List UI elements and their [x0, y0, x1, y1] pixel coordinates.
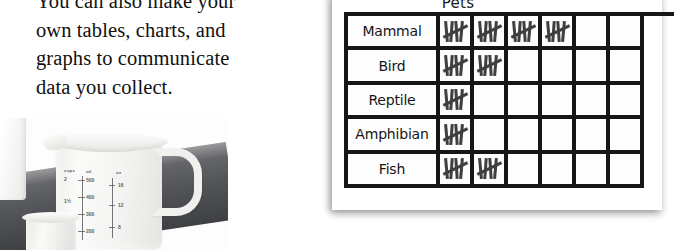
- scale-tick: [78, 197, 85, 198]
- table-row: Fish: [348, 154, 674, 188]
- scale-cups-2: 2: [64, 176, 67, 182]
- tally-cell-empty: [610, 50, 644, 84]
- scale-header-oz: oz: [116, 170, 121, 175]
- row-label-mammal: Mammal: [348, 16, 440, 50]
- table-row: Amphibian: [348, 119, 674, 153]
- small-cup-rim: [22, 212, 80, 223]
- tally-cell-empty: [474, 119, 508, 153]
- scale-tick: [78, 180, 85, 181]
- scale-tick: [78, 231, 85, 232]
- tally-mark-icon: [512, 21, 535, 42]
- table-row: Reptile: [348, 85, 674, 119]
- tally-cell-empty: [508, 85, 542, 119]
- scale-ml-500: 500: [86, 177, 94, 183]
- table-row: Mammal: [348, 16, 674, 50]
- tally-cell-filled: [474, 50, 508, 84]
- tally-cell-filled: [440, 50, 474, 84]
- paragraph-line-3: graphs to communicate: [36, 44, 326, 73]
- measuring-cup-photo: cups ml oz 2 1½ 1 500 400 300 200 16 12 …: [0, 118, 228, 250]
- tally-cell-empty: [542, 50, 576, 84]
- tally-cell-empty: [576, 50, 610, 84]
- tally-mark-icon: [444, 124, 467, 145]
- paragraph: You can also make your own tables, chart…: [36, 0, 326, 101]
- tally-cell-filled: [474, 154, 508, 188]
- tally-cell-empty: [610, 16, 644, 50]
- scale-oz-16: 16: [118, 182, 124, 188]
- scale-cups-1h: 1½: [64, 198, 71, 204]
- scale-tick: [109, 205, 115, 206]
- scale-ml-300: 300: [86, 211, 94, 217]
- tally-cell-empty: [508, 119, 542, 153]
- chart-title: Pets: [332, 0, 584, 12]
- scale-ml-400: 400: [86, 194, 94, 200]
- tally-cell-filled: [440, 154, 474, 188]
- tally-cell-filled: [440, 16, 474, 50]
- tally-cell-filled: [440, 119, 474, 153]
- scale-ml-200: 200: [86, 228, 94, 234]
- tally-cell-filled: [508, 16, 542, 50]
- row-label-amphibian: Amphibian: [348, 119, 440, 153]
- scale-tick: [109, 185, 115, 186]
- tally-mark-icon: [478, 55, 501, 76]
- tally-mark-icon: [546, 21, 569, 42]
- tally-mark-icon: [444, 21, 467, 42]
- pitcher-rim: [50, 130, 168, 152]
- tally-cell-empty: [542, 85, 576, 119]
- scale-tick: [109, 227, 115, 228]
- table-row: Bird: [348, 50, 674, 84]
- row-label-fish: Fish: [348, 154, 440, 188]
- paragraph-line-1: You can also make your: [36, 0, 326, 16]
- tally-cell-empty: [610, 119, 644, 153]
- chart-card: Pets MammalBirdReptileAmphibianFish: [332, 0, 662, 210]
- tally-mark-icon: [478, 21, 501, 42]
- scale-header-cups: cups: [64, 168, 75, 173]
- tally-cell-filled: [440, 85, 474, 119]
- tally-cell-empty: [576, 154, 610, 188]
- tally-cell-empty: [610, 154, 644, 188]
- tally-cell-filled: [542, 16, 576, 50]
- tally-chart-grid: MammalBirdReptileAmphibianFish: [344, 12, 674, 188]
- row-label-bird: Bird: [348, 50, 440, 84]
- tally-mark-icon: [444, 89, 467, 110]
- tally-cell-empty: [508, 50, 542, 84]
- pitcher-handle: [152, 148, 202, 216]
- scale-oz-12: 12: [118, 202, 124, 208]
- row-label-reptile: Reptile: [348, 85, 440, 119]
- paragraph-line-2: own tables, charts, and: [36, 16, 326, 45]
- tally-cell-filled: [474, 16, 508, 50]
- paragraph-line-4: data you collect.: [36, 73, 326, 102]
- scale-header-ml: ml: [86, 169, 92, 174]
- tally-cell-empty: [508, 154, 542, 188]
- tally-mark-icon: [478, 158, 501, 179]
- tally-cell-empty: [474, 85, 508, 119]
- tally-cell-empty: [576, 85, 610, 119]
- scale-tick: [78, 214, 85, 215]
- tally-cell-empty: [610, 85, 644, 119]
- tally-mark-icon: [444, 55, 467, 76]
- scale-rule-oz: [112, 178, 113, 238]
- tally-cell-empty: [576, 16, 610, 50]
- tally-cell-empty: [542, 119, 576, 153]
- tally-cell-empty: [542, 154, 576, 188]
- background-container: [0, 118, 26, 200]
- tally-mark-icon: [444, 158, 467, 179]
- scale-oz-8: 8: [118, 224, 121, 230]
- tally-cell-empty: [576, 119, 610, 153]
